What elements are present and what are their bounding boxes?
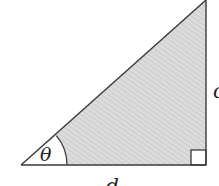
right-angle-marker: [191, 150, 206, 165]
side-label-c: c: [213, 79, 219, 103]
angle-label-theta: θ: [40, 143, 52, 165]
right-triangle-diagram: θ d c: [0, 0, 219, 186]
base-label-d: d: [106, 174, 119, 186]
